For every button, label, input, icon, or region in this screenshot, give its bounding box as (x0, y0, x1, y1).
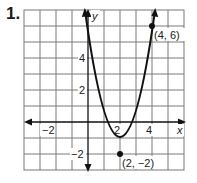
tick-y-neg2: −2 (71, 148, 84, 160)
point-top-label: (4, 6) (154, 29, 180, 41)
tick-x-neg2: −2 (42, 124, 55, 136)
y-axis-down-arrow-icon (85, 164, 92, 172)
tick-y-4: 4 (79, 52, 85, 64)
x-axis-left-arrow-icon (24, 119, 32, 126)
tick-y-2: 2 (79, 84, 85, 96)
point-vertex-label: (2, −2) (122, 157, 154, 169)
tick-x-4: 4 (146, 124, 152, 136)
x-axis-label: x (176, 124, 183, 136)
graph: −2 2 4 x 4 2 −2 y (4, 6) (2, −2) (0, 0, 197, 183)
